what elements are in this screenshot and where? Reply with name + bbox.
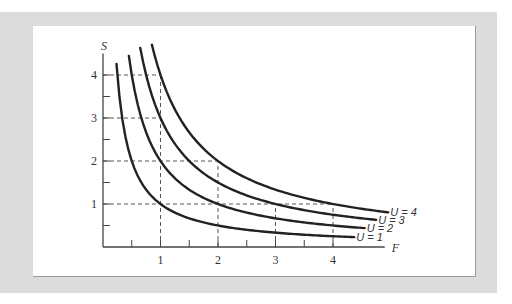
- y-axis-label: S: [101, 39, 107, 53]
- axes: [103, 54, 385, 248]
- indifference-curve-u1: [117, 64, 355, 237]
- x-tick-label: 2: [215, 253, 221, 267]
- y-tick-label: 1: [91, 197, 97, 211]
- chart-labels: 12341234SFU = 1U = 2U = 3U = 4: [91, 39, 417, 268]
- y-tick-label: 4: [91, 68, 97, 82]
- indifference-curves: [117, 45, 389, 238]
- x-axis-label: F: [391, 241, 400, 255]
- indifference-curve-u3: [140, 48, 376, 220]
- y-tick-label: 3: [91, 111, 97, 125]
- y-tick-label: 2: [91, 154, 97, 168]
- x-tick-label: 4: [330, 253, 336, 267]
- curve-label-u4: U = 4: [390, 206, 417, 218]
- x-tick-label: 3: [273, 253, 279, 267]
- x-tick-label: 1: [158, 253, 164, 267]
- indifference-curve-chart: 12341234SFU = 1U = 2U = 3U = 4: [0, 0, 512, 304]
